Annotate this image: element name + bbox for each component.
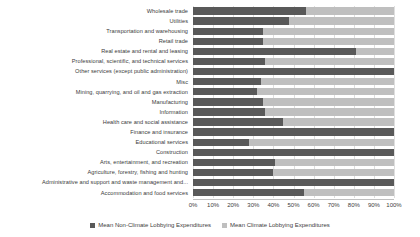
x-tick-label: 30% bbox=[247, 201, 259, 209]
legend-swatch-icon bbox=[90, 223, 95, 228]
bar-track bbox=[193, 179, 394, 186]
bar-track bbox=[193, 98, 394, 105]
x-tick-label: 60% bbox=[308, 201, 320, 209]
bar-segment-climate bbox=[265, 108, 394, 115]
bar-segment-climate bbox=[263, 28, 394, 35]
bar-row: Educational services bbox=[0, 137, 420, 147]
bar-track bbox=[193, 189, 394, 196]
bar-row: Health care and social assistance bbox=[0, 117, 420, 127]
bar-row: Information bbox=[0, 107, 420, 117]
bar-row: Wholesale trade bbox=[0, 6, 420, 16]
category-label: Other services (except public administra… bbox=[0, 68, 193, 74]
bar-track bbox=[193, 118, 394, 125]
bar-segment-climate bbox=[263, 98, 394, 105]
bar-segment-non-climate bbox=[193, 108, 265, 115]
x-axis-line bbox=[193, 199, 394, 200]
bar-segment-non-climate bbox=[193, 189, 304, 196]
bar-segment-climate bbox=[304, 189, 394, 196]
bar-row: Retail trade bbox=[0, 36, 420, 46]
bar-track bbox=[193, 108, 394, 115]
bar-row: Utilities bbox=[0, 16, 420, 26]
category-label: Retail trade bbox=[0, 38, 193, 44]
legend-item[interactable]: Mean Climate Lobbying Expenditures bbox=[222, 221, 330, 229]
stacked-bar-chart: Wholesale tradeUtilitiesTransportation a… bbox=[0, 0, 420, 237]
bar-row: Professional, scientific, and technical … bbox=[0, 56, 420, 66]
bar-track bbox=[193, 139, 394, 146]
bar-row: Transportation and warehousing bbox=[0, 26, 420, 36]
x-axis: 0%10%20%30%40%50%60%70%80%90%100% bbox=[193, 199, 394, 211]
bar-segment-climate bbox=[275, 159, 394, 166]
bar-segment-climate bbox=[263, 38, 394, 45]
legend-label: Mean Climate Lobbying Expenditures bbox=[230, 221, 330, 229]
bar-segment-non-climate bbox=[193, 179, 394, 186]
bar-segment-non-climate bbox=[193, 17, 289, 24]
legend-item[interactable]: Mean Non-Climate Lobbying Expenditures bbox=[90, 221, 211, 229]
category-label: Transportation and warehousing bbox=[0, 28, 193, 34]
bar-segment-non-climate bbox=[193, 118, 283, 125]
bar-segment-non-climate bbox=[193, 58, 265, 65]
bar-segment-non-climate bbox=[193, 68, 394, 75]
bar-row: Manufacturing bbox=[0, 97, 420, 107]
bar-row: Administrative and support and waste man… bbox=[0, 178, 420, 188]
category-label: Accommodation and food services bbox=[0, 190, 193, 196]
bar-track bbox=[193, 159, 394, 166]
x-tick-label: 70% bbox=[328, 201, 340, 209]
bar-segment-climate bbox=[249, 139, 394, 146]
x-tick-label: 50% bbox=[287, 201, 299, 209]
bar-track bbox=[193, 78, 394, 85]
bar-segment-climate bbox=[273, 169, 394, 176]
bar-row: Misc bbox=[0, 77, 420, 87]
plot-area: Wholesale tradeUtilitiesTransportation a… bbox=[0, 6, 420, 198]
bar-rows: Wholesale tradeUtilitiesTransportation a… bbox=[0, 6, 420, 198]
category-label: Utilities bbox=[0, 18, 193, 24]
bar-segment-climate bbox=[257, 88, 394, 95]
bar-segment-non-climate bbox=[193, 128, 394, 135]
bar-segment-climate bbox=[283, 118, 394, 125]
bar-row: Finance and insurance bbox=[0, 127, 420, 137]
x-tick-label: 20% bbox=[227, 201, 239, 209]
bar-row: Arts, entertainment, and recreation bbox=[0, 157, 420, 167]
category-label: Construction bbox=[0, 149, 193, 155]
bar-segment-non-climate bbox=[193, 28, 263, 35]
bar-row: Accommodation and food services bbox=[0, 188, 420, 198]
category-label: Mining, quarrying, and oil and gas extra… bbox=[0, 89, 193, 95]
category-label: Arts, entertainment, and recreation bbox=[0, 159, 193, 165]
x-tick-label: 100% bbox=[386, 201, 401, 209]
x-tick-label: 80% bbox=[348, 201, 360, 209]
category-label: Real estate and rental and leasing bbox=[0, 48, 193, 54]
category-label: Finance and insurance bbox=[0, 129, 193, 135]
bar-track bbox=[193, 28, 394, 35]
category-label: Professional, scientific, and technical … bbox=[0, 58, 193, 64]
bar-segment-non-climate bbox=[193, 139, 249, 146]
category-label: Administrative and support and waste man… bbox=[0, 179, 193, 185]
category-label: Educational services bbox=[0, 139, 193, 145]
bar-row: Other services (except public administra… bbox=[0, 67, 420, 77]
legend-swatch-icon bbox=[222, 223, 227, 228]
bar-track bbox=[193, 17, 394, 24]
category-label: Health care and social assistance bbox=[0, 119, 193, 125]
legend-label: Mean Non-Climate Lobbying Expenditures bbox=[98, 221, 211, 229]
bar-segment-non-climate bbox=[193, 169, 273, 176]
bar-track bbox=[193, 7, 394, 14]
bar-track bbox=[193, 169, 394, 176]
bar-segment-climate bbox=[356, 48, 394, 55]
chart-legend: Mean Non-Climate Lobbying ExpendituresMe… bbox=[0, 221, 420, 229]
bar-row: Mining, quarrying, and oil and gas extra… bbox=[0, 87, 420, 97]
bar-segment-non-climate bbox=[193, 159, 275, 166]
bar-row: Agriculture, forestry, fishing and hunti… bbox=[0, 168, 420, 178]
bar-track bbox=[193, 149, 394, 156]
x-tick-label: 90% bbox=[368, 201, 380, 209]
bar-track bbox=[193, 68, 394, 75]
bar-segment-climate bbox=[265, 58, 394, 65]
x-tick-label: 40% bbox=[267, 201, 279, 209]
bar-segment-non-climate bbox=[193, 98, 263, 105]
bar-segment-climate bbox=[261, 78, 394, 85]
bar-segment-non-climate bbox=[193, 149, 394, 156]
category-label: Information bbox=[0, 109, 193, 115]
bar-segment-non-climate bbox=[193, 78, 261, 85]
bar-segment-climate bbox=[289, 17, 394, 24]
category-label: Misc bbox=[0, 79, 193, 85]
bar-segment-non-climate bbox=[193, 88, 257, 95]
x-tick-label: 0% bbox=[189, 201, 198, 209]
bar-segment-climate bbox=[306, 7, 394, 14]
